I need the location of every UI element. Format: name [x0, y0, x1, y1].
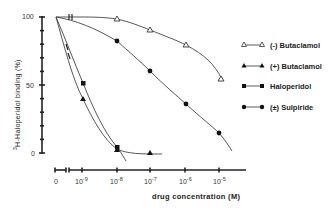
legend-item-minus-butaclamol: (-) Butaclamol — [242, 41, 321, 50]
open-triangle-icon — [242, 42, 247, 47]
filled-circle-icon — [148, 69, 153, 74]
legend: (-) Butaclamol (+) Butaclamol Haloperido… — [242, 41, 322, 112]
filled-triangle-icon — [242, 63, 247, 68]
x-tick-1e-9: 10-9 — [75, 176, 88, 185]
legend-item-sulpiride: (±) Sulpiride — [242, 103, 313, 112]
filled-circle-icon — [260, 105, 264, 109]
filled-triangle-icon — [260, 63, 265, 68]
open-triangle-icon — [260, 42, 265, 47]
filled-square-icon — [242, 84, 246, 88]
legend-label: Haloperidol — [270, 82, 311, 91]
filled-triangle-icon — [80, 96, 86, 101]
y-tick-100: 100 — [22, 13, 34, 20]
x-tick-1e-7: 10-7 — [144, 176, 157, 185]
markers-minus-butaclamol — [114, 16, 224, 81]
x-tick-1e-6: 10-6 — [179, 176, 192, 185]
filled-square-icon — [81, 81, 86, 86]
y-tick-50: 50 — [26, 82, 34, 89]
filled-circle-icon — [217, 131, 222, 136]
filled-triangle-icon — [147, 150, 153, 155]
legend-item-haloperidol: Haloperidol — [242, 82, 311, 91]
curve-minus-butaclamol — [56, 17, 222, 79]
legend-label: (-) Butaclamol — [270, 41, 320, 50]
y-axis-title-text: H-Haloperidol binding (%) — [14, 59, 22, 147]
svg-text:3H-Haloperidol binding (%): 3H-Haloperidol binding (%) — [12, 59, 22, 150]
curve-haloperidol — [56, 17, 126, 161]
y-axis-title: 3H-Haloperidol binding (%) — [12, 59, 22, 150]
x-tick-1e-8: 10-8 — [110, 176, 123, 185]
binding-chart: 100 50 0 3H-Haloperidol binding (%) 0 10… — [0, 0, 335, 211]
x-tick-0: 0 — [54, 178, 58, 185]
filled-square-icon — [260, 84, 264, 88]
x-tick-1e-5: 10-5 — [213, 176, 226, 185]
filled-circle-icon — [184, 102, 189, 107]
y-tick-0: 0 — [31, 150, 35, 157]
filled-circle-icon — [242, 105, 246, 109]
curve-plus-butaclamol — [56, 17, 162, 154]
legend-item-plus-butaclamol: (+) Butaclamol — [242, 62, 322, 71]
filled-circle-icon — [115, 39, 120, 44]
legend-label: (+) Butaclamol — [270, 62, 322, 71]
y-axis — [39, 16, 45, 154]
curves — [56, 17, 232, 161]
open-triangle-icon — [218, 76, 224, 81]
x-axis — [55, 168, 246, 173]
legend-label: (±) Sulpiride — [270, 103, 313, 112]
x-axis-title: drug concentration (M) — [152, 192, 240, 201]
open-triangle-icon — [183, 42, 189, 47]
